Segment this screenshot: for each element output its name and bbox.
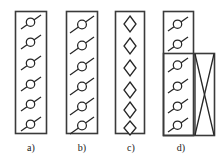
panel-caption-b: b) [67, 142, 97, 153]
figure-container: a) b) c) d) [0, 0, 223, 167]
panel-caption-a: a) [16, 142, 46, 153]
panel-d-cross [195, 54, 214, 135]
panel-caption-c: c) [116, 142, 146, 153]
panel-caption-d: d) [166, 142, 196, 153]
panel-d-strip-border [164, 12, 194, 136]
